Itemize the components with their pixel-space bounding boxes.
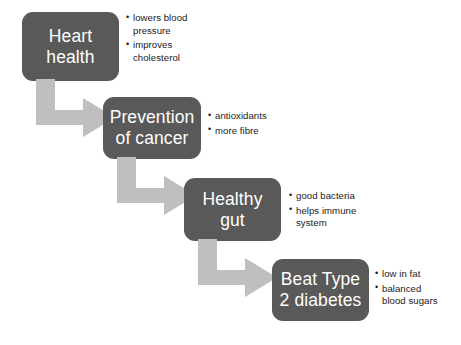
node-healthy-gut[interactable]: Healthy gut (184, 178, 281, 241)
node-label: Healthy gut (202, 189, 262, 230)
bullets-beat-type-2-diabetes: low in fat balanced blood sugars (375, 268, 461, 310)
node-label: Beat Type 2 diabetes (280, 269, 362, 310)
bullet-item: more fibre (208, 125, 308, 138)
bullets-heart-health: lowers blood pressure improves cholester… (126, 12, 226, 67)
bullet-item: lowers blood pressure (126, 12, 226, 37)
bullet-item: improves cholesterol (126, 39, 226, 64)
arrow-gut-to-diabetes-icon (198, 239, 278, 298)
node-beat-type-2-diabetes[interactable]: Beat Type 2 diabetes (272, 259, 369, 321)
node-label: Prevention of cancer (110, 107, 195, 148)
bullets-healthy-gut: good bacteria helps immune system (289, 190, 389, 232)
bullet-item: low in fat (375, 268, 461, 281)
node-heart-health[interactable]: Heart health (22, 12, 119, 81)
node-label: Heart health (46, 26, 94, 67)
diagram-canvas: Heart health lowers blood pressure impro… (0, 0, 461, 345)
bullets-prevention-of-cancer: antioxidants more fibre (208, 110, 308, 139)
bullet-item: helps immune system (289, 205, 389, 230)
bullet-item: antioxidants (208, 110, 308, 123)
bullet-item: balanced blood sugars (375, 283, 461, 308)
bullet-item: good bacteria (289, 190, 389, 203)
node-prevention-of-cancer[interactable]: Prevention of cancer (103, 97, 201, 159)
